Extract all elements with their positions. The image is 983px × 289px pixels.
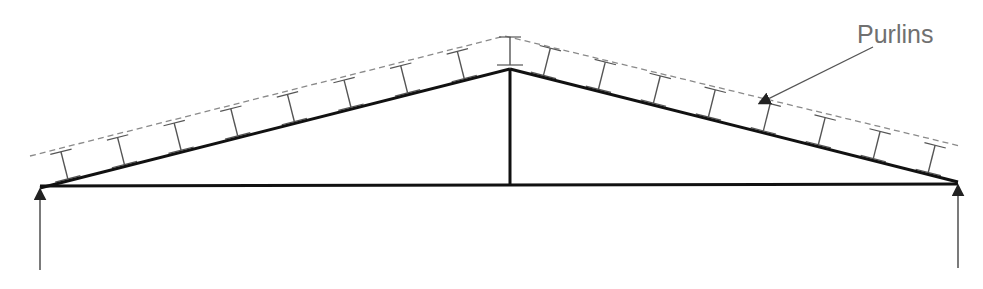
purlin-right-4 <box>696 87 728 121</box>
purlin-right-8 <box>916 142 948 176</box>
purlin-right-1 <box>531 45 563 79</box>
truss-diagram: Purlins <box>0 0 983 289</box>
purlin-left-8 <box>445 48 477 82</box>
purlin-apex <box>497 37 523 65</box>
purlin-left-5 <box>275 91 307 125</box>
purlin-left-7 <box>388 63 420 97</box>
right-rafter <box>510 69 958 182</box>
purlin-left-4 <box>218 106 250 140</box>
purlin-right-3 <box>641 73 673 107</box>
left-rafter <box>40 69 510 188</box>
bottom-chord <box>40 184 958 186</box>
purlins-leader-arrow <box>760 47 873 103</box>
purlin-left-3 <box>162 120 194 154</box>
purlin-right-5 <box>751 101 783 135</box>
purlin-right-2 <box>586 59 618 93</box>
purlin-right-7 <box>861 128 893 162</box>
purlin-left-1 <box>48 149 80 183</box>
purlins-label: Purlins <box>857 20 933 48</box>
purlin-left-6 <box>331 77 363 111</box>
purlin-left-2 <box>105 134 137 168</box>
purlin-right-6 <box>806 114 838 148</box>
purlins-group <box>48 37 947 182</box>
